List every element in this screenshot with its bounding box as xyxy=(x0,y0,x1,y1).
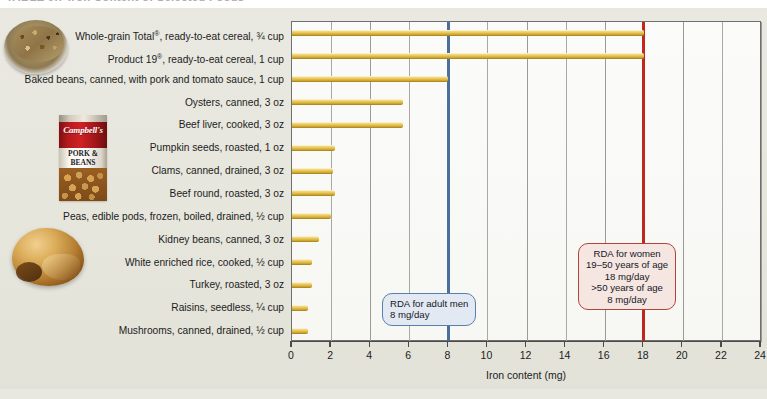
category-label: Kidney beans, canned, 3 oz xyxy=(158,234,284,245)
page-title: TABLE 9.7 Iron Content of Selected Foods xyxy=(6,0,244,3)
x-tick-24 xyxy=(759,341,760,347)
bar xyxy=(292,328,308,334)
x-tick-label-10: 10 xyxy=(481,349,493,361)
x-tick-18 xyxy=(642,341,643,347)
gridline-10 xyxy=(487,22,488,342)
x-tick-label-6: 6 xyxy=(405,349,411,361)
category-label: Oysters, canned, 3 oz xyxy=(185,97,284,108)
rda-women-line-4: >50 years of age xyxy=(586,282,668,293)
rda-men-line-1: RDA for adult men xyxy=(390,298,468,309)
category-label: Pumpkin seeds, roasted, 1 oz xyxy=(150,142,284,153)
bar xyxy=(292,305,308,311)
rda-women-line-1: RDA for women xyxy=(586,248,668,259)
bar xyxy=(292,76,448,82)
gridline-22 xyxy=(722,22,723,342)
plot-right-border xyxy=(760,21,761,341)
category-label: Whole-grain Total®, ready-to-eat cereal,… xyxy=(75,28,284,42)
x-tick-10 xyxy=(486,341,487,347)
figure-container: TABLE 9.7 Iron Content of Selected Foods… xyxy=(0,0,767,399)
x-tick-14 xyxy=(564,341,565,347)
x-tick-label-14: 14 xyxy=(559,349,571,361)
x-tick-label-24: 24 xyxy=(754,349,766,361)
gridline-2 xyxy=(331,22,332,342)
bar xyxy=(292,259,312,265)
bar xyxy=(292,236,319,242)
category-label: Raisins, seedless, ¼ cup xyxy=(171,302,284,313)
category-label: Clams, canned, drained, 3 oz xyxy=(151,165,284,176)
plot-area xyxy=(291,21,760,341)
gridline-20 xyxy=(683,22,684,342)
rda-men-callout: RDA for adult men8 mg/day xyxy=(382,293,476,326)
x-tick-label-18: 18 xyxy=(637,349,649,361)
rda-women-line-2: 19–50 years of age xyxy=(586,259,668,270)
rda-women-line-5: 8 mg/day xyxy=(586,294,668,305)
category-label: Peas, edible pods, frozen, boiled, drain… xyxy=(63,211,284,222)
rda-women-line-3: 18 mg/day xyxy=(586,271,668,282)
x-tick-2 xyxy=(329,341,330,347)
x-tick-label-8: 8 xyxy=(444,349,450,361)
category-label: Mushrooms, canned, drained, ½ cup xyxy=(119,325,284,336)
bar xyxy=(292,213,331,219)
bar xyxy=(292,53,644,59)
category-label: White enriched rice, cooked, ½ cup xyxy=(125,257,284,268)
x-tick-16 xyxy=(603,341,604,347)
gridline-14 xyxy=(566,22,567,342)
x-tick-4 xyxy=(369,341,370,347)
rda-women-callout: RDA for women19–50 years of age18 mg/day… xyxy=(578,243,676,310)
bar xyxy=(292,145,335,151)
bar xyxy=(292,190,335,196)
x-tick-label-20: 20 xyxy=(676,349,688,361)
bar xyxy=(292,122,403,128)
figure-title-strip: TABLE 9.7 Iron Content of Selected Foods xyxy=(0,0,767,8)
x-tick-label-0: 0 xyxy=(288,349,294,361)
x-tick-22 xyxy=(720,341,721,347)
category-label: Product 19®, ready-to-eat cereal, 1 cup xyxy=(108,51,284,65)
category-label: Turkey, roasted, 3 oz xyxy=(189,279,284,290)
x-tick-8 xyxy=(447,341,448,347)
rda-men-line-2: 8 mg/day xyxy=(390,309,468,320)
gridline-4 xyxy=(370,22,371,342)
category-label: Beef round, roasted, 3 oz xyxy=(170,188,284,199)
x-tick-label-4: 4 xyxy=(366,349,372,361)
gridline-12 xyxy=(527,22,528,342)
x-axis-title: Iron content (mg) xyxy=(291,369,761,381)
category-label: Beef liver, cooked, 3 oz xyxy=(179,119,284,130)
bar xyxy=(292,282,312,288)
x-tick-label-22: 22 xyxy=(715,349,727,361)
category-label: Baked beans, canned, with pork and tomat… xyxy=(25,74,284,85)
bar xyxy=(292,168,333,174)
x-tick-label-16: 16 xyxy=(598,349,610,361)
bar xyxy=(292,99,403,105)
x-tick-6 xyxy=(408,341,409,347)
x-tick-20 xyxy=(681,341,682,347)
x-tick-0 xyxy=(290,341,291,347)
x-tick-12 xyxy=(525,341,526,347)
category-label-column: Whole-grain Total®, ready-to-eat cereal,… xyxy=(0,21,288,341)
x-tick-label-12: 12 xyxy=(520,349,532,361)
x-tick-label-2: 2 xyxy=(327,349,333,361)
bar xyxy=(292,30,644,36)
